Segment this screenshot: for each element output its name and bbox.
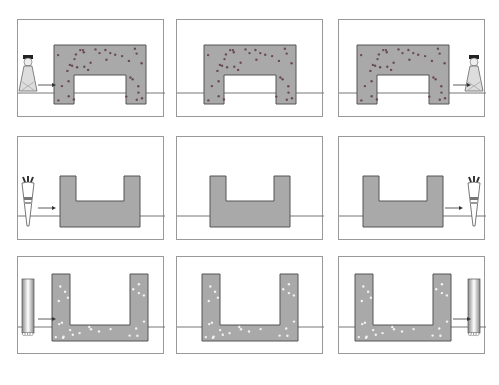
panel-r2-c2 [176,136,323,240]
arrow-right-icon [38,83,56,87]
panel-r3-c3 [338,256,485,354]
panel-r2-c1 [17,136,164,240]
panel-r3-c1 [17,256,164,354]
carrot-figure-icon [468,176,480,226]
panel-r1-c1 [17,19,164,117]
panel-r1-c2 [176,19,323,117]
panel-r2-c3 [338,136,485,240]
column-figure-icon [22,279,34,336]
queen-figure-icon [19,55,37,91]
panel-r3-c2 [176,256,323,354]
arrow-right-icon [445,206,463,210]
u-block-block [60,176,140,227]
u-block-block [210,176,290,227]
arrow-right-icon [38,206,56,210]
panel-r1-c3 [338,19,485,117]
u-block-block [363,176,443,227]
carrot-figure-icon [22,176,34,226]
column-figure-icon [468,279,480,336]
